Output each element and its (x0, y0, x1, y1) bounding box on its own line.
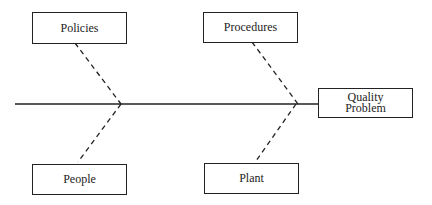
cause-box-people: People (32, 164, 127, 195)
bone-procedures (252, 42, 298, 104)
bone-policies (75, 43, 121, 104)
effect-label-line2: Problem (345, 103, 386, 114)
bone-plant (256, 104, 296, 161)
effect-box-quality-problem: Quality Problem (318, 88, 413, 118)
cause-label: People (63, 174, 96, 185)
cause-box-procedures: Procedures (203, 12, 298, 43)
fishbone-diagram: Policies Procedures Quality Problem Peop… (0, 0, 432, 205)
cause-label: Policies (61, 23, 99, 34)
bone-people (78, 104, 121, 162)
cause-box-policies: Policies (32, 12, 127, 44)
cause-label: Plant (239, 173, 264, 184)
cause-box-plant: Plant (204, 163, 299, 194)
cause-label: Procedures (224, 22, 277, 33)
